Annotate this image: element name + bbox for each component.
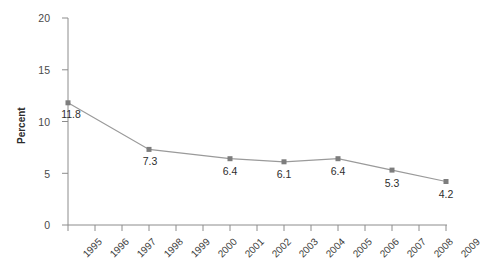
data-point-1998 — [147, 147, 152, 152]
data-label-2007: 5.3 — [377, 177, 407, 189]
data-label-2009: 4.2 — [431, 188, 461, 200]
data-point-2007 — [390, 168, 395, 173]
data-label-2001: 6.4 — [215, 165, 245, 177]
data-point-2009 — [444, 179, 449, 184]
data-point-2003 — [282, 159, 287, 164]
data-point-2001 — [228, 156, 233, 161]
data-line-percent — [68, 103, 446, 182]
data-label-1998: 7.3 — [135, 155, 165, 167]
plot-area — [0, 0, 482, 276]
data-point-2005 — [336, 156, 341, 161]
data-label-1995: 11.8 — [56, 108, 86, 120]
data-label-2005: 6.4 — [323, 165, 353, 177]
data-point-1995 — [66, 100, 71, 105]
line-chart: Percent 20 15 10 5 0 — [0, 0, 482, 276]
data-label-2003: 6.1 — [269, 168, 299, 180]
